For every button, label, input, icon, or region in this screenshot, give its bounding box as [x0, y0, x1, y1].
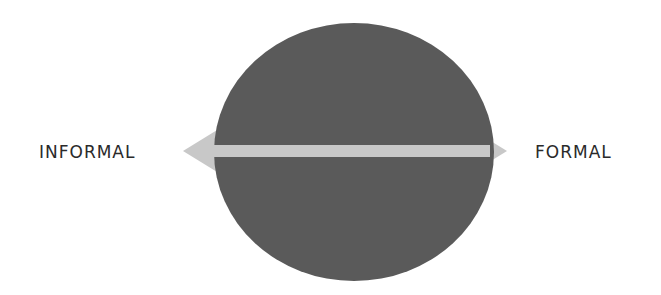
informal-label: INFORMAL: [39, 142, 135, 162]
formal-label: FORMAL: [535, 142, 612, 162]
spectrum-diagram: INFORMAL FORMAL: [0, 0, 661, 295]
spectrum-bar: [200, 145, 490, 157]
